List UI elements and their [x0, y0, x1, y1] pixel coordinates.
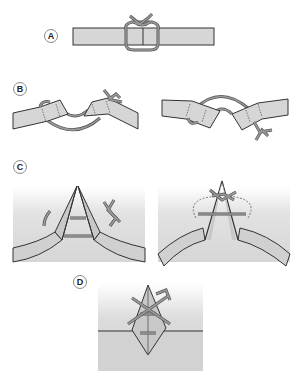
panel-c-left-illustration: [13, 186, 145, 262]
panel-d-illustration: [98, 283, 203, 371]
panel-c-right-illustration: [158, 181, 290, 266]
panel-a-illustration: [73, 14, 214, 50]
panel-b-left-illustration: [13, 90, 138, 130]
suture-diagram: [0, 0, 304, 382]
panel-b-right-illustration: [162, 97, 288, 141]
